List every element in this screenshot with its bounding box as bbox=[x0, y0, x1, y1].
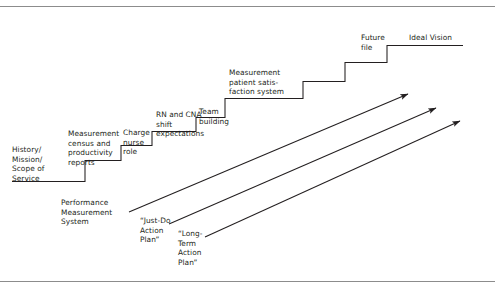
step-label-ideal-vision: Ideal Vision bbox=[409, 33, 471, 43]
arrow-3-line bbox=[205, 121, 460, 237]
step-label-history-mission-scope: History/ Mission/ Scope of Service bbox=[12, 145, 74, 183]
step-label-measurement-patient-satisfaction: Measurement patient satis- faction syste… bbox=[229, 68, 303, 97]
arrow-label-performance-measurement-system: Performance Measurement System bbox=[61, 198, 131, 227]
step-label-team-building: Team building bbox=[199, 107, 239, 126]
staircase-diagram: History/ Mission/ Scope of Service Measu… bbox=[0, 0, 495, 297]
arrow-label-long-term-action-plan: “Long- Term Action Plan” bbox=[178, 229, 220, 267]
step-label-future-file: Future file bbox=[361, 33, 395, 52]
